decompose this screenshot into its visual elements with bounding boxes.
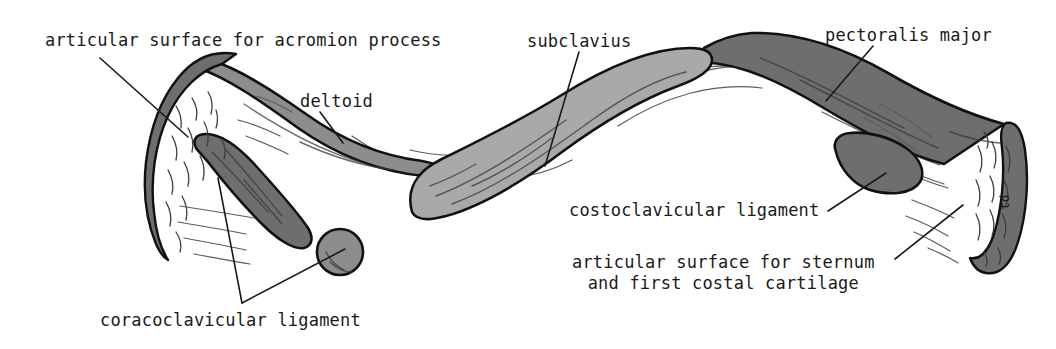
label-coracoclavicular-ligament: coracoclavicular ligament xyxy=(100,310,361,331)
label-td-mark: td xyxy=(994,194,1015,210)
label-articular-surface-acromion: articular surface for acromion process xyxy=(45,30,442,51)
label-costoclavicular-ligament: costoclavicular ligament xyxy=(569,200,819,221)
label-subclavius: subclavius xyxy=(527,31,631,52)
label-pectoralis-major: pectoralis major xyxy=(825,25,992,46)
clavicle-diagram xyxy=(0,0,1056,349)
leader-articular-sternum xyxy=(895,205,963,259)
subclavius-groove-region xyxy=(410,48,712,219)
anatomical-figure: articular surface for acromion process d… xyxy=(0,0,1056,349)
label-articular-surface-sternum: articular surface for sternum and first … xyxy=(572,252,875,294)
subclavius-oval xyxy=(410,48,712,219)
label-deltoid: deltoid xyxy=(300,91,373,112)
